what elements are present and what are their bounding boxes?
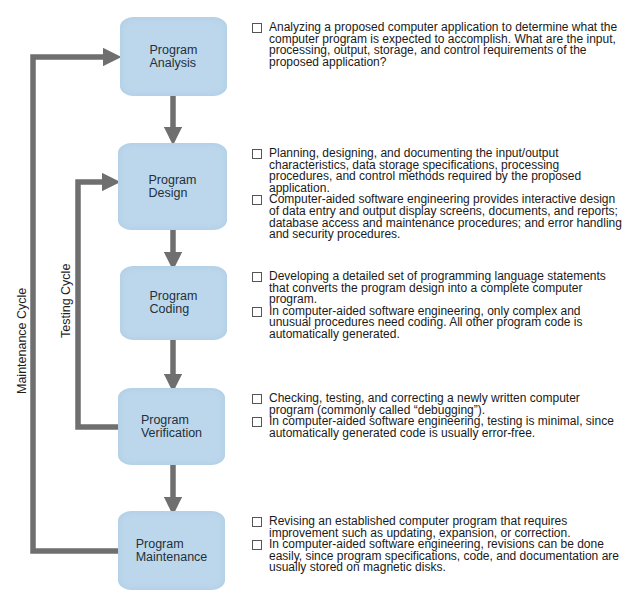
checkbox-bullet-icon — [252, 394, 262, 404]
coding-description: Developing a detailed set of programming… — [252, 271, 622, 341]
description-item: Analyzing a proposed computer applicatio… — [252, 22, 622, 68]
description-text: In computer-aided software engineering, … — [269, 539, 622, 574]
testing-cycle-loop — [78, 182, 118, 427]
stage-label: Program Analysis — [150, 44, 198, 70]
description-text: Planning, designing, and documenting the… — [269, 148, 622, 194]
description-text: Checking, testing, and correcting a newl… — [269, 393, 622, 416]
stage-label: Program Design — [149, 174, 197, 200]
stage-program-coding: Program Coding — [120, 266, 227, 340]
description-item: In computer-aided software engineering, … — [252, 416, 622, 439]
stage-label: Program Maintenance — [136, 538, 208, 564]
stage-label: Program Coding — [150, 290, 198, 316]
analysis-description: Analyzing a proposed computer applicatio… — [252, 22, 622, 68]
description-text: In computer-aided software engineering, … — [269, 416, 622, 439]
description-item: Computer-aided software engineering prov… — [252, 194, 622, 240]
checkbox-bullet-icon — [252, 517, 262, 527]
stage-program-design: Program Design — [118, 143, 227, 230]
stage-label: Program Verification — [141, 414, 202, 440]
testing-cycle-label: Testing Cycle — [59, 264, 73, 338]
description-text: Computer-aided software engineering prov… — [269, 194, 622, 240]
description-text: Analyzing a proposed computer applicatio… — [269, 22, 622, 68]
description-text: Developing a detailed set of programming… — [269, 271, 622, 306]
description-item: Planning, designing, and documenting the… — [252, 148, 622, 194]
design-description: Planning, designing, and documenting the… — [252, 148, 622, 241]
checkbox-bullet-icon — [252, 417, 262, 427]
verification-description: Checking, testing, and correcting a newl… — [252, 393, 622, 439]
description-item: In computer-aided software engineering, … — [252, 539, 622, 574]
checkbox-bullet-icon — [252, 149, 262, 159]
description-item: Developing a detailed set of programming… — [252, 271, 622, 306]
maintenance-cycle-label: Maintenance Cycle — [15, 288, 29, 394]
checkbox-bullet-icon — [252, 540, 262, 550]
description-item: Revising an established computer program… — [252, 516, 622, 539]
stage-program-maintenance: Program Maintenance — [118, 511, 225, 590]
stage-program-verification: Program Verification — [118, 388, 225, 465]
maintenance-description: Revising an established computer program… — [252, 516, 622, 574]
description-item: Checking, testing, and correcting a newl… — [252, 393, 622, 416]
description-text: In computer-aided software engineering, … — [269, 306, 622, 341]
checkbox-bullet-icon — [252, 23, 262, 33]
stage-program-analysis: Program Analysis — [120, 17, 227, 96]
checkbox-bullet-icon — [252, 272, 262, 282]
checkbox-bullet-icon — [252, 195, 262, 205]
checkbox-bullet-icon — [252, 307, 262, 317]
description-item: In computer-aided software engineering, … — [252, 306, 622, 341]
description-text: Revising an established computer program… — [269, 516, 622, 539]
